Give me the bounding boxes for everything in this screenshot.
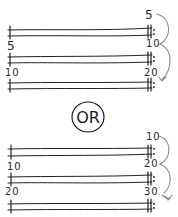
bottom-right-label-2: 20 — [144, 158, 159, 169]
or-separator: OR — [72, 102, 104, 132]
top-group: 5 5 10 10 20 — [5, 8, 170, 92]
line-numbering-diagram: 5 5 10 10 20 — [0, 0, 178, 217]
bottom-left-label-1: 10 — [7, 161, 22, 172]
flow-arrow-icon — [159, 136, 172, 200]
staff-line — [8, 78, 155, 92]
staff-line — [8, 172, 155, 186]
bottom-right-label-1: 10 — [146, 131, 161, 142]
staff-line — [8, 25, 155, 39]
or-label: OR — [76, 108, 100, 127]
repeat-dot — [153, 29, 155, 31]
top-right-label-3: 20 — [144, 67, 159, 78]
bottom-right-label-3: 30 — [144, 186, 159, 197]
staff-line — [8, 145, 155, 159]
bottom-left-label-2: 20 — [5, 186, 20, 197]
top-right-label-1: 5 — [145, 8, 154, 22]
top-right-label-2: 10 — [146, 38, 161, 49]
bottom-group: 10 10 20 20 30 — [5, 131, 172, 213]
staff-line — [8, 52, 155, 66]
top-left-label-2: 10 — [5, 67, 20, 78]
staff-line — [8, 199, 155, 213]
repeat-dot — [153, 33, 155, 35]
top-left-label-1: 5 — [7, 39, 16, 53]
